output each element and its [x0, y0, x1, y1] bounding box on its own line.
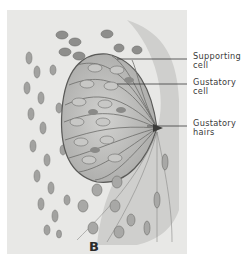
- label-gustatory-hairs: Gustatory hairs: [193, 119, 236, 136]
- label-line: cell: [193, 87, 236, 96]
- label-supporting-cell: Supporting cell: [193, 52, 241, 69]
- taste-bud-illustration: B: [7, 10, 187, 254]
- illustration-drawing: [7, 10, 187, 254]
- label-line: cell: [193, 61, 241, 70]
- label-line: hairs: [193, 128, 236, 137]
- label-gustatory-cell: Gustatory cell: [193, 78, 236, 95]
- panel-letter: B: [89, 239, 99, 254]
